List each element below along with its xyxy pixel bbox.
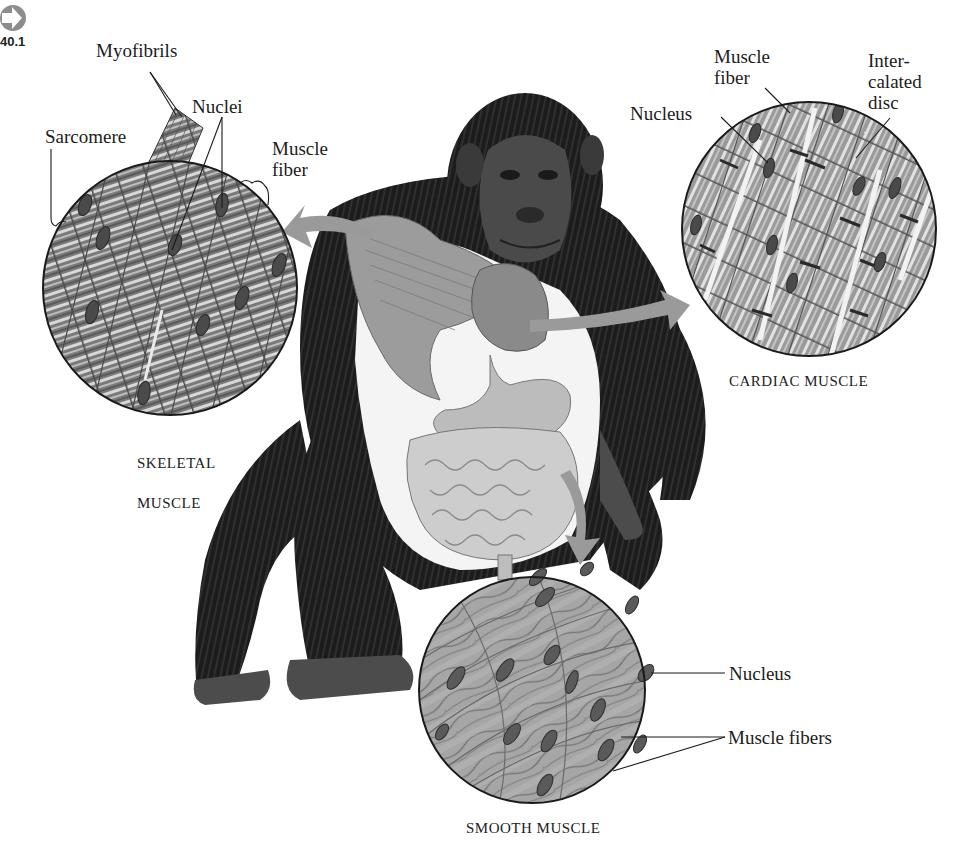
label-sarcomere: Sarcomere xyxy=(45,126,126,147)
label-myofibrils: Myofibrils xyxy=(96,40,177,61)
muscle-types-figure: 40.1 Myofibrils Nuclei Sarcomere Muscle … xyxy=(0,0,977,842)
label-skeletal-muscle-fiber: Muscle fiber xyxy=(272,138,328,180)
caption-skeletal-muscle: Skeletal muscle xyxy=(120,433,216,533)
smooth-muscle-micrograph xyxy=(419,560,657,803)
label-nuclei: Nuclei xyxy=(192,96,243,117)
label-smooth-muscle-fibers: Muscle fibers xyxy=(728,727,832,748)
skeletal-muscle-micrograph xyxy=(43,108,300,420)
label-cardiac-nucleus: Nucleus xyxy=(630,103,692,124)
caption-skeletal-line1: Skeletal xyxy=(137,455,216,471)
arrow-right-circle-icon[interactable] xyxy=(0,5,26,31)
caption-cardiac-muscle: Cardiac muscle xyxy=(729,371,868,391)
cardiac-muscle-micrograph xyxy=(660,100,950,380)
label-intercalated-disc: Inter- calated disc xyxy=(868,50,922,113)
caption-skeletal-line2: muscle xyxy=(137,495,201,511)
label-cardiac-muscle-fiber: Muscle fiber xyxy=(714,46,770,88)
figure-reference-number[interactable]: 40.1 xyxy=(0,34,25,49)
caption-smooth-muscle: Smooth muscle xyxy=(466,818,600,838)
label-smooth-nucleus: Nucleus xyxy=(729,663,791,684)
